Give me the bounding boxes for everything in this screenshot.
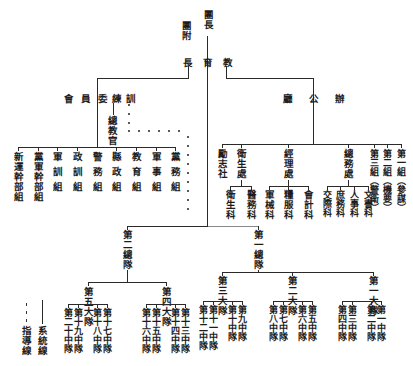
guide-dot — [187, 172, 189, 174]
company-label: 第十六中隊 — [141, 308, 151, 353]
company-label: 第十九中隊 — [73, 308, 83, 353]
company-line — [203, 301, 243, 302]
guide-dot — [128, 122, 130, 124]
brigade-label: 第二大隊 — [287, 276, 297, 316]
company-line — [146, 304, 186, 305]
tick — [175, 147, 176, 151]
sub-line — [269, 186, 309, 187]
company-label: 第十七中隊 — [102, 308, 112, 353]
company-label: 第十一中隊 — [208, 305, 218, 350]
committee-group: 黨務組 — [170, 152, 180, 197]
guide-dot — [187, 199, 189, 201]
tick — [348, 144, 349, 148]
guide-dot — [187, 145, 189, 147]
tick — [88, 282, 89, 286]
office-unit: 衛生處 — [236, 149, 246, 179]
committee-group: 黨軍幹部組 — [33, 152, 43, 202]
corps2-brigade-line — [88, 282, 166, 283]
guide-dot — [178, 130, 180, 132]
sub-line — [230, 186, 252, 187]
office-sub: 軍械科 — [264, 190, 274, 220]
corps-split-line-right — [208, 226, 258, 227]
guide-dot — [148, 130, 150, 132]
company-label: 第十五中隊 — [151, 308, 161, 353]
corps-split-line — [127, 226, 208, 227]
right-branch-line — [226, 78, 314, 79]
guide-dot — [168, 130, 170, 132]
legend-solid-label: 系統線 — [37, 326, 47, 356]
office-sub: 衛生科 — [225, 190, 235, 220]
tick — [57, 147, 58, 151]
chief-instructor-label: 總教官 — [107, 116, 117, 146]
tick — [77, 147, 78, 151]
office-unit: 第二組（機要） — [382, 149, 391, 212]
left-branch-drop — [188, 66, 189, 78]
company-line — [273, 301, 313, 302]
tick — [288, 144, 289, 148]
tick — [222, 144, 223, 148]
tick — [166, 282, 167, 286]
tick — [116, 147, 117, 151]
committee-group: 政訓組 — [72, 152, 82, 197]
company-label: 第五中隊 — [307, 305, 317, 341]
office-trunk — [313, 78, 314, 144]
office-unit: 勵志社 — [217, 149, 227, 179]
office-sub: 糧服科 — [283, 190, 293, 220]
committee-group: 新運幹部組 — [13, 152, 23, 202]
company-label: 第十二中隊 — [198, 305, 208, 350]
corps1-brigade-line — [222, 272, 374, 273]
company-label: 第三中隊 — [347, 305, 357, 341]
legend-dotted-line — [26, 319, 27, 322]
guide-dot — [187, 136, 189, 138]
office-sub: 醫務科 — [246, 190, 256, 220]
tick — [18, 147, 19, 151]
office-units-line — [222, 144, 402, 145]
deputy-label: 團附 — [181, 21, 191, 41]
office-unit: 總務處 — [343, 149, 353, 179]
committee-group: 教育組 — [131, 152, 141, 197]
corps-label: 第二總隊 — [122, 230, 132, 270]
guide-dot — [187, 163, 189, 165]
office-sub: 交際科 — [322, 190, 332, 217]
tick — [374, 144, 375, 148]
company-line — [342, 301, 382, 302]
company-label: 第四中隊 — [337, 305, 347, 341]
company-label: 第二中隊 — [366, 305, 376, 341]
committee-trunk — [97, 78, 98, 148]
committee-groups-line — [18, 147, 176, 148]
committee-group: 軍訓組 — [52, 152, 62, 197]
company-label: 第七中隊 — [278, 305, 288, 341]
tick — [401, 144, 402, 148]
tick — [156, 147, 157, 151]
office-unit: 經理處 — [283, 149, 293, 179]
legend-dotted-line — [26, 303, 27, 306]
sub-line — [327, 186, 369, 187]
guide-dot — [138, 130, 140, 132]
guide-dot — [128, 104, 130, 106]
left-branch-line — [97, 78, 189, 79]
tick — [387, 144, 388, 148]
office-unit: 第一組（參謀） — [396, 149, 405, 212]
committee-group: 警務組 — [92, 152, 102, 197]
company-label: 第六中隊 — [297, 305, 307, 341]
company-label: 第九中隊 — [237, 305, 247, 341]
guide-dot — [128, 130, 130, 132]
tick — [136, 147, 137, 151]
commander-label: 團長 — [203, 10, 213, 32]
office-sub: 文書科 — [363, 190, 373, 217]
committee-group: 軍事組 — [151, 152, 161, 197]
office-sub: 庶務科 — [335, 190, 345, 217]
company-line — [68, 304, 108, 305]
legend-dotted-line — [26, 311, 27, 314]
committee-group: 縣政組 — [111, 152, 121, 197]
company-label: 第八中隊 — [268, 305, 278, 341]
guide-dot — [187, 154, 189, 156]
guide-dot — [187, 190, 189, 192]
company-label: 第十三中隊 — [180, 308, 190, 353]
company-label: 第十中隊 — [227, 305, 237, 341]
company-label: 第十八中隊 — [92, 308, 102, 353]
legend-solid-line — [42, 300, 43, 324]
guide-dot — [128, 113, 130, 115]
tick — [38, 147, 39, 151]
corps2-trunk — [127, 270, 128, 282]
